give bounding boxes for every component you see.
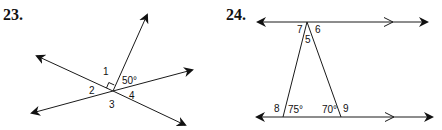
angle-8-label: 8: [274, 103, 280, 114]
problem-number-24: 24.: [226, 6, 246, 23]
right-angle-mark: [107, 83, 115, 89]
angle-given-70-label: 70°: [322, 104, 337, 115]
geometry-figures: 23. 1 50° 2 3 4 24. 7 6 5 8 75°: [0, 0, 442, 130]
angle-6-label: 6: [315, 24, 321, 35]
line-a-ext: [113, 91, 185, 125]
angle-given-50-label: 50°: [122, 75, 137, 86]
figure-23: 23. 1 50° 2 3 4: [3, 6, 192, 125]
line-b: [32, 91, 113, 113]
triangle-left-side: [283, 22, 307, 117]
angle-7-label: 7: [297, 24, 303, 35]
angle-5-label: 5: [305, 34, 311, 45]
angle-given-75-label: 75°: [288, 104, 303, 115]
angle-2-label: 2: [89, 85, 95, 96]
figure-24: 24. 7 6 5 8 75° 70° 9: [226, 6, 432, 122]
angle-9-label: 9: [343, 103, 349, 114]
angle-3-label: 3: [109, 99, 115, 110]
line-a: [37, 56, 113, 91]
problem-number-23: 23.: [3, 6, 23, 23]
angle-4-label: 4: [129, 90, 135, 101]
triangle-right-side: [307, 22, 341, 117]
angle-1-label: 1: [103, 66, 109, 77]
